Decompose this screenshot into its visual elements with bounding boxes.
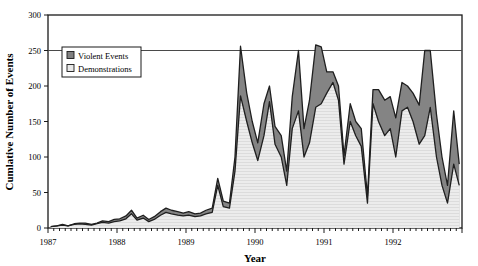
y-tick-label: 100	[28, 152, 41, 162]
x-tick-label: 1992	[385, 237, 402, 247]
y-tick-label: 50	[33, 188, 42, 198]
x-tick-label: 1990	[247, 237, 264, 247]
chart-container: 050100150200250300 198719881989199019911…	[0, 0, 478, 266]
y-tick-label: 250	[28, 46, 41, 56]
x-axis-title: Year	[244, 252, 266, 264]
y-tick-label: 0	[37, 223, 41, 233]
y-tick-label: 300	[28, 10, 41, 20]
x-tick-label: 1987	[40, 237, 57, 247]
x-tick-label: 1988	[109, 237, 126, 247]
legend-swatch-demonstrations	[67, 65, 74, 72]
x-tick-label: 1989	[178, 237, 195, 247]
legend-swatch-violent-events	[67, 52, 74, 59]
y-tick-label: 200	[28, 81, 41, 91]
y-axis-title: Cumlative Number of Events	[3, 53, 15, 191]
legend: Violent EventsDemonstrations	[62, 47, 141, 77]
legend-label-demonstrations: Demonstrations	[78, 64, 132, 74]
x-tick-label: 1991	[316, 237, 333, 247]
legend-label-violent-events: Violent Events	[78, 51, 128, 61]
events-area-chart: 050100150200250300 198719881989199019911…	[0, 0, 478, 266]
y-tick-label: 150	[28, 117, 41, 127]
